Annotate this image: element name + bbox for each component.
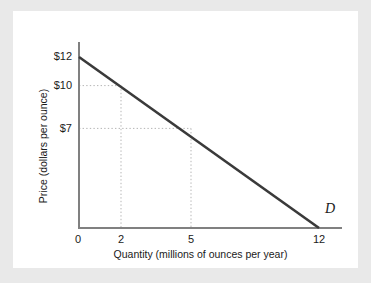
x-tick-label-12: 12 bbox=[308, 233, 330, 245]
x-axis-title: Quantity (millions of ounces per year) bbox=[78, 248, 323, 260]
x-tick-label-5: 5 bbox=[180, 233, 202, 245]
demand-curve-line bbox=[79, 57, 319, 228]
x-tick-label-2: 2 bbox=[110, 233, 132, 245]
figure-frame: $12 $10 $7 0 2 5 12 D Price (dollars per… bbox=[0, 0, 371, 283]
y-axis-title: Price (dollars per ounce) bbox=[37, 71, 49, 221]
x-tick-label-0: 0 bbox=[67, 233, 89, 245]
demand-curve-chart: $12 $10 $7 0 2 5 12 D Price (dollars per… bbox=[0, 0, 371, 283]
demand-curve-label: D bbox=[325, 201, 335, 217]
y-tick-label-12: $12 bbox=[44, 50, 72, 62]
